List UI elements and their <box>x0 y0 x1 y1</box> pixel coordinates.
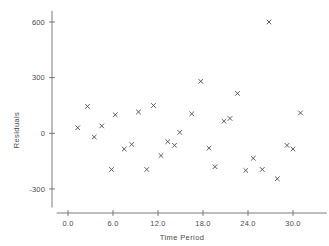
x-tick-label: 18.0 <box>195 219 210 228</box>
data-point-marker <box>207 146 212 151</box>
data-point-marker <box>267 20 272 25</box>
y-tick-label: -300 <box>29 185 45 194</box>
data-point-marker <box>228 116 233 121</box>
y-tick-label: 300 <box>32 73 45 82</box>
x-axis: 0.06.012.018.024.030.0 <box>57 210 327 228</box>
x-tick-label: 12.0 <box>150 219 165 228</box>
data-point-marker <box>172 143 177 148</box>
y-axis-title: Residuals <box>12 112 21 149</box>
data-point-marker <box>177 130 182 135</box>
data-point-marker <box>243 168 248 173</box>
data-point-marker <box>159 153 164 158</box>
data-point-marker <box>189 112 194 117</box>
y-tick-label: 600 <box>32 18 45 27</box>
data-point-marker <box>92 135 97 140</box>
data-point-marker <box>285 143 290 148</box>
data-point-marker <box>151 103 156 108</box>
data-point-marker <box>122 147 127 152</box>
data-points-layer <box>75 20 302 181</box>
x-tick-label: 30.0 <box>285 219 300 228</box>
y-axis: 6003000-300 <box>29 11 55 208</box>
data-point-marker <box>291 147 296 152</box>
data-point-marker <box>113 112 118 117</box>
chart-canvas: 6003000-300 0.06.012.018.024.030.0 Time … <box>0 0 329 246</box>
data-point-marker <box>85 104 90 109</box>
data-point-marker <box>129 142 134 147</box>
data-point-marker <box>75 125 80 130</box>
data-point-marker <box>136 110 141 115</box>
residuals-scatter-chart: 6003000-300 0.06.012.018.024.030.0 Time … <box>0 0 329 246</box>
data-point-marker <box>222 119 227 124</box>
data-point-marker <box>298 111 303 116</box>
x-tick-label: 6.0 <box>107 219 118 228</box>
data-point-marker <box>198 79 203 84</box>
data-point-marker <box>99 124 104 129</box>
data-point-marker <box>165 139 170 144</box>
data-point-marker <box>213 164 218 169</box>
data-point-marker <box>275 176 280 181</box>
y-tick-label: 0 <box>41 129 45 138</box>
data-point-marker <box>260 167 265 172</box>
x-tick-label: 0.0 <box>62 219 73 228</box>
x-axis-title: Time Period <box>160 233 205 242</box>
x-tick-label: 24.0 <box>240 219 255 228</box>
data-point-marker <box>144 167 149 172</box>
data-point-marker <box>251 156 256 161</box>
data-point-marker <box>109 167 114 172</box>
data-point-marker <box>235 91 240 96</box>
